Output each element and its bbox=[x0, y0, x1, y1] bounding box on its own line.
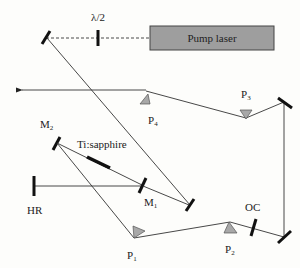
laser-cavity-diagram: Pump laser λ/2 P4 P3 M2 Ti:sapphire bbox=[0, 0, 300, 268]
mirror-bottom-right bbox=[278, 231, 291, 243]
beam-p1-p2 bbox=[134, 222, 230, 238]
crystal-label: Ti:sapphire bbox=[77, 138, 127, 150]
pump-beam-diagonal bbox=[47, 38, 190, 205]
m2-label: M2 bbox=[40, 118, 54, 132]
p1-label: P1 bbox=[127, 249, 137, 263]
output-coupler bbox=[251, 219, 256, 236]
beam-p4-p3 bbox=[146, 91, 246, 118]
mirror-lower-center bbox=[186, 199, 194, 211]
half-wave-plate-label: λ/2 bbox=[91, 11, 105, 23]
beam-p2-oc bbox=[230, 222, 284, 237]
p4-label: P4 bbox=[148, 114, 158, 128]
beam-m2-p1 bbox=[57, 143, 134, 238]
mirror-right-top bbox=[278, 98, 292, 108]
prism-p4 bbox=[140, 94, 150, 104]
mirror-m1 bbox=[139, 178, 146, 193]
m1-label: M1 bbox=[144, 196, 158, 210]
diagram-canvas: Pump laser λ/2 P4 P3 M2 Ti:sapphire bbox=[0, 0, 300, 268]
steering-mirror-top-left bbox=[42, 31, 50, 44]
p2-label: P2 bbox=[225, 243, 235, 257]
pump-laser-label: Pump laser bbox=[187, 32, 237, 44]
oc-label: OC bbox=[245, 201, 260, 213]
ti-sapphire-crystal bbox=[87, 157, 110, 168]
p3-label: P3 bbox=[241, 88, 251, 102]
prism-p3 bbox=[240, 110, 252, 119]
hr-label: HR bbox=[27, 204, 43, 216]
